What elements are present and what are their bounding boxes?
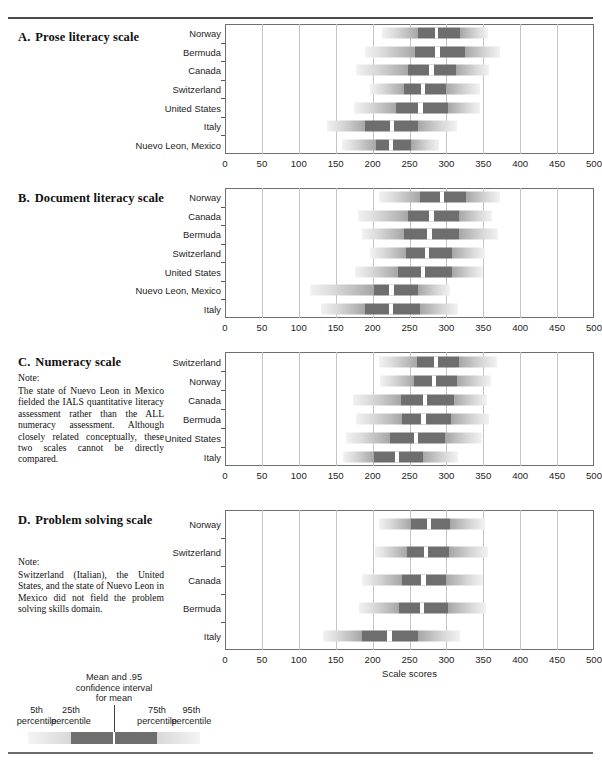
- whisker-upper: [459, 229, 498, 240]
- whisker-lower: [370, 248, 406, 259]
- percentile-bar: [342, 139, 439, 150]
- percentile-bar: [355, 266, 483, 277]
- top-divider: [8, 17, 593, 19]
- mean-confidence-interval: [425, 248, 429, 259]
- row-label: Norway: [189, 192, 221, 203]
- mean-confidence-interval: [427, 519, 431, 530]
- x-axis-tick-label: 450: [549, 470, 565, 481]
- legend-mean-caption-line: confidence interval: [76, 683, 153, 694]
- row-label: Canada: [188, 65, 221, 76]
- gridline: [557, 510, 558, 650]
- whisker-lower: [342, 139, 377, 150]
- row-label: Bermuda: [183, 413, 221, 424]
- row-label: Canada: [188, 575, 221, 586]
- legend-caption-line: 25th: [51, 705, 91, 716]
- x-axis-tick-label: 200: [365, 322, 381, 333]
- axis-tick: [221, 225, 225, 226]
- row-label: Nuevo Leon, Mexico: [136, 139, 221, 150]
- x-axis-tick-label: 500: [586, 470, 602, 481]
- panel-title-text: Problem solving scale: [35, 513, 152, 527]
- x-axis-tick-label: 0: [222, 158, 227, 169]
- row-label: Bermuda: [183, 46, 221, 57]
- interquartile-box: [418, 28, 459, 39]
- whisker-upper: [459, 356, 497, 367]
- x-axis-tick-label: 150: [328, 470, 344, 481]
- panel-title: A.Prose literacy scale: [18, 30, 139, 45]
- whisker-lower: [354, 102, 396, 113]
- interquartile-box: [406, 248, 452, 259]
- gridline: [483, 510, 484, 650]
- plot-area: [225, 24, 594, 154]
- mean-confidence-interval: [432, 375, 436, 386]
- mean-confidence-interval: [387, 631, 391, 642]
- legend-percentile-caption: 25thpercentile: [51, 705, 91, 726]
- whisker-lower: [343, 451, 374, 462]
- percentile-bar: [356, 65, 490, 76]
- whisker-upper: [423, 451, 458, 462]
- gridline: [262, 510, 263, 650]
- x-axis-tick-label: 0: [222, 322, 227, 333]
- gridline: [336, 24, 337, 154]
- legend-mean-pointer: [114, 705, 115, 732]
- gridline: [410, 352, 411, 466]
- x-axis-tick-label: 300: [438, 322, 454, 333]
- whisker-upper: [457, 375, 491, 386]
- panel-letter: B.: [18, 191, 30, 205]
- x-axis-tick-label: 400: [512, 470, 528, 481]
- row-label: United States: [165, 432, 221, 443]
- percentile-bar: [359, 603, 486, 614]
- row-label: Bermuda: [183, 603, 221, 614]
- whisker-lower: [356, 413, 402, 424]
- panel-title-text: Numeracy scale: [35, 355, 121, 369]
- mean-confidence-interval: [389, 139, 393, 150]
- mean-confidence-interval: [421, 84, 425, 95]
- whisker-lower: [379, 356, 417, 367]
- row-label: Norway: [189, 519, 221, 530]
- x-axis-tick-label: 150: [328, 322, 344, 333]
- x-axis-tick-label: 100: [291, 322, 307, 333]
- panel-title: C.Numeracy scale: [18, 355, 121, 370]
- whisker-lower: [310, 285, 374, 296]
- panel-note-body: The state of Nuevo Leon in Mexico fielde…: [18, 385, 164, 465]
- whisker-upper: [418, 121, 457, 132]
- whisker-upper: [449, 547, 487, 558]
- interquartile-box: [415, 46, 464, 57]
- whisker-lower: [380, 375, 414, 386]
- x-axis-tick-label: 350: [475, 654, 491, 665]
- whisker-upper: [445, 432, 482, 443]
- whisker-upper: [448, 603, 486, 614]
- x-axis-tick-label: 100: [291, 654, 307, 665]
- x-axis-tick-label: 350: [475, 158, 491, 169]
- whisker-upper: [448, 102, 480, 113]
- percentile-bar: [375, 547, 488, 558]
- legend-percentile-caption: 95thpercentile: [171, 705, 211, 726]
- whisker-upper: [465, 46, 500, 57]
- whisker-lower: [359, 603, 399, 614]
- whisker-upper: [459, 210, 492, 221]
- gridline: [483, 24, 484, 154]
- row-label: Nuevo Leon, Mexico: [136, 285, 221, 296]
- x-axis-tick-label: 500: [586, 654, 602, 665]
- mean-confidence-interval: [435, 28, 439, 39]
- whisker-upper: [411, 139, 439, 150]
- percentile-bar: [379, 356, 497, 367]
- gridline: [336, 352, 337, 466]
- whisker-upper: [418, 285, 450, 296]
- x-axis-tick-label: 50: [257, 322, 268, 333]
- row-label: Italy: [204, 451, 221, 462]
- whisker-lower: [379, 519, 411, 530]
- interquartile-box: [398, 266, 453, 277]
- axis-tick: [221, 409, 225, 410]
- gridline: [299, 352, 300, 466]
- x-axis-tick-label: 150: [328, 654, 344, 665]
- gridline: [557, 352, 558, 466]
- gridline: [520, 510, 521, 650]
- mean-confidence-interval: [427, 229, 431, 240]
- plot-area: [225, 352, 594, 466]
- panel-note-heading: Note:: [18, 556, 164, 567]
- x-axis-tick-label: 50: [257, 470, 268, 481]
- row-label: Switzerland: [173, 84, 221, 95]
- x-axis-tick-label: 50: [257, 654, 268, 665]
- gridline: [336, 510, 337, 650]
- percentile-bar: [362, 229, 498, 240]
